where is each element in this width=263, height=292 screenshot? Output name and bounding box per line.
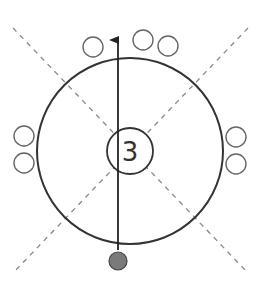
player-left-upper: [14, 126, 34, 146]
player-left-lower: [14, 153, 34, 173]
player-right-lower: [226, 154, 246, 174]
center-label: 3: [122, 137, 139, 167]
drill-diagram: 3: [0, 0, 263, 292]
player-top-right: [158, 36, 178, 56]
player-right-upper: [226, 127, 246, 147]
player-top-left: [83, 37, 103, 57]
ball-icon: [109, 252, 127, 270]
player-top-middle: [133, 30, 153, 50]
